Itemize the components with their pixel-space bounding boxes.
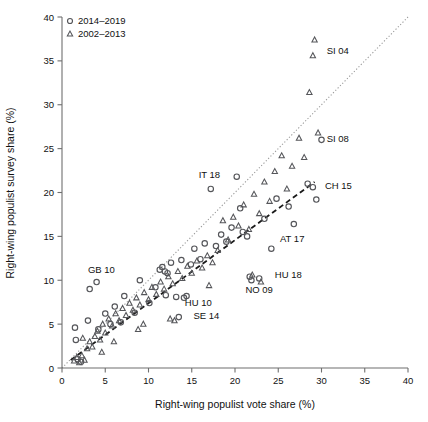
data-point-triangle: [99, 349, 104, 354]
y-tick-label: 30: [43, 99, 54, 110]
data-point-triangle: [87, 339, 92, 344]
data-point-triangle: [307, 90, 312, 95]
point-annotation-label: HU 10: [185, 297, 212, 308]
y-tick-label: 25: [43, 143, 54, 154]
data-point-circle: [122, 293, 127, 298]
data-point-triangle: [257, 211, 262, 216]
data-point-triangle: [135, 326, 140, 331]
data-point-triangle: [167, 316, 172, 321]
data-point-circle: [94, 279, 99, 284]
data-point-triangle: [154, 291, 159, 296]
data-point-circle: [218, 232, 223, 237]
data-point-triangle: [90, 344, 95, 349]
data-point-triangle: [120, 305, 125, 310]
data-point-triangle: [272, 169, 277, 174]
data-point-triangle: [189, 270, 194, 275]
data-point-circle: [310, 185, 315, 190]
data-point-triangle: [199, 265, 204, 270]
x-tick-label: 40: [403, 375, 414, 386]
data-point-circle: [229, 225, 234, 230]
data-point-triangle: [194, 258, 199, 263]
data-point-circle: [103, 311, 108, 316]
x-tick-label: 5: [103, 375, 108, 386]
data-point-circle: [163, 292, 168, 297]
x-tick-label: 35: [359, 375, 370, 386]
data-point-triangle: [296, 135, 301, 140]
data-point-circle: [179, 257, 184, 262]
point-annotations: GB 10SE 14HU 10IT 18NO 09HU 18AT 17CH 15…: [88, 45, 352, 321]
x-tick-label: 20: [230, 375, 241, 386]
data-point-circle: [262, 216, 267, 221]
data-point-triangle: [241, 202, 246, 207]
x-tick-label: 10: [143, 375, 154, 386]
data-point-triangle: [92, 334, 97, 339]
data-point-triangle: [142, 290, 147, 295]
data-point-triangle: [134, 295, 139, 300]
y-tick-label: 5: [49, 319, 54, 330]
data-point-triangle: [284, 186, 289, 191]
data-point-triangle: [310, 53, 315, 58]
data-point-triangle: [210, 260, 215, 265]
data-point-triangle: [141, 321, 146, 326]
data-point-circle: [234, 174, 239, 179]
data-point-triangle: [312, 37, 317, 42]
data-point-circle: [274, 196, 279, 201]
data-point-triangle: [175, 269, 180, 274]
data-point-circle: [168, 260, 173, 265]
data-point-circle: [176, 314, 181, 319]
data-point-triangle: [161, 286, 166, 291]
legend-item-label: 2014–2019: [78, 15, 126, 26]
y-tick-label: 0: [49, 363, 54, 374]
y-tick-label: 40: [43, 12, 54, 23]
point-annotation-label: GB 10: [88, 264, 115, 275]
point-annotation-label: AT 17: [280, 233, 304, 244]
x-tick-label: 0: [59, 375, 64, 386]
data-point-triangle: [246, 226, 251, 231]
x-axis-title: Right-wing populist vote share (%): [155, 398, 315, 410]
data-point-triangle: [231, 214, 236, 219]
legend: 2014–20192002–2013: [67, 15, 125, 39]
data-point-triangle: [111, 339, 116, 344]
data-point-circle: [85, 318, 90, 323]
data-point-triangle: [279, 153, 284, 158]
data-point-triangle: [262, 179, 267, 184]
data-point-triangle: [158, 279, 163, 284]
point-annotation-label: CH 15: [325, 180, 352, 191]
data-point-triangle: [185, 263, 190, 268]
data-point-circle: [192, 246, 197, 251]
data-point-triangle: [206, 283, 211, 288]
data-point-triangle: [100, 321, 105, 326]
data-point-triangle: [170, 281, 175, 286]
data-point-circle: [291, 221, 296, 226]
x-tick-label: 30: [316, 375, 327, 386]
data-point-circle: [269, 246, 274, 251]
data-point-circle: [319, 137, 324, 142]
point-annotation-label: SI 04: [327, 45, 349, 56]
x-tick-label: 15: [186, 375, 197, 386]
point-annotation-label: SE 14: [193, 310, 219, 321]
data-point-circle: [72, 325, 77, 330]
data-point-triangle: [127, 300, 132, 305]
data-point-circle: [68, 19, 73, 24]
data-point-triangle: [137, 302, 142, 307]
data-point-triangle: [302, 155, 307, 160]
point-annotation-label: HU 18: [275, 269, 302, 280]
y-tick-label: 35: [43, 55, 54, 66]
data-point-circle: [314, 197, 319, 202]
data-point-triangle: [123, 312, 128, 317]
data-point-circle: [137, 278, 142, 283]
data-point-circle: [244, 234, 249, 239]
legend-item-label: 2002–2013: [78, 28, 126, 39]
y-tick-label: 15: [43, 231, 54, 242]
data-point-triangle: [251, 191, 256, 196]
plot-canvas: 05101520253035400510152025303540 GB 10SE…: [0, 0, 428, 422]
x-tick-label: 25: [273, 375, 284, 386]
data-point-circle: [208, 186, 213, 191]
data-point-triangle: [315, 130, 320, 135]
data-point-triangle: [205, 253, 210, 258]
point-annotation-label: SI 08: [327, 133, 349, 144]
scatter-plot-figure: 05101520253035400510152025303540 GB 10SE…: [0, 0, 428, 422]
data-point-circle: [305, 181, 310, 186]
point-annotation-label: IT 18: [199, 169, 220, 180]
point-annotation-label: NO 09: [245, 284, 272, 295]
